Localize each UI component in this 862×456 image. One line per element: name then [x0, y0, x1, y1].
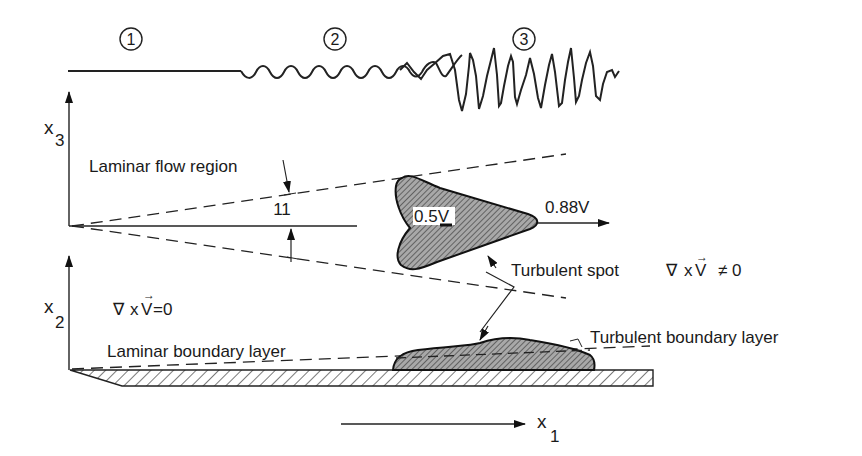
callout-arrow-up	[488, 256, 496, 268]
curl-nonzero-x: x	[684, 261, 693, 280]
curl-zero-eq: =0	[153, 300, 172, 319]
curl-zero-x: x	[130, 300, 139, 319]
x2-axis-label: x 2	[44, 296, 64, 332]
turbulent-spot-diagram: 1 2 3 x 3 Laminar flow region 11 0.5V	[0, 0, 862, 456]
x1-axis-label: x 1	[537, 411, 559, 446]
flat-plate	[70, 370, 653, 386]
svg-text:3: 3	[520, 31, 529, 48]
turbulent-signal-trace	[400, 48, 619, 111]
turbulent-bl-leader	[570, 339, 582, 347]
spot-front-velocity-label: 0.88V	[545, 198, 590, 217]
callout-leader	[480, 272, 514, 332]
svg-text:2: 2	[331, 31, 340, 48]
laminar-boundary-layer-label: Laminar boundary layer	[107, 342, 286, 361]
callout-arrow-down	[480, 326, 488, 340]
x3-axis-label: x 3	[44, 117, 64, 150]
turbulent-boundary-layer-label: Turbulent boundary layer	[590, 328, 779, 347]
side-view: x 2 ∇ x V → =0 Laminar boundary layer Tu…	[44, 256, 779, 446]
signal-trace: 1 2 3	[68, 28, 619, 111]
spot-rear-velocity-label: 0.5V	[414, 207, 450, 226]
turbulent-spot-callout: Turbulent spot ∇ x V → ≠ 0	[480, 250, 742, 340]
stage-2-marker: 2	[324, 28, 346, 50]
curl-nonzero-ne: ≠ 0	[718, 261, 742, 280]
curl-nonzero-nabla: ∇	[665, 261, 678, 280]
laminar-flow-region-label: Laminar flow region	[89, 157, 237, 176]
stage-1-marker: 1	[120, 28, 142, 50]
svg-text:1: 1	[127, 31, 136, 48]
turbulent-spot-label: Turbulent spot	[511, 261, 619, 280]
curl-zero-v: V	[141, 300, 153, 319]
spread-angle-label: 11	[273, 200, 291, 219]
angle-pointer-top	[283, 160, 289, 192]
curl-zero-nabla: ∇	[112, 300, 125, 319]
vector-arrow-icon: →	[696, 250, 708, 264]
transition-signal-wave	[241, 55, 462, 78]
stage-3-marker: 3	[513, 28, 535, 50]
